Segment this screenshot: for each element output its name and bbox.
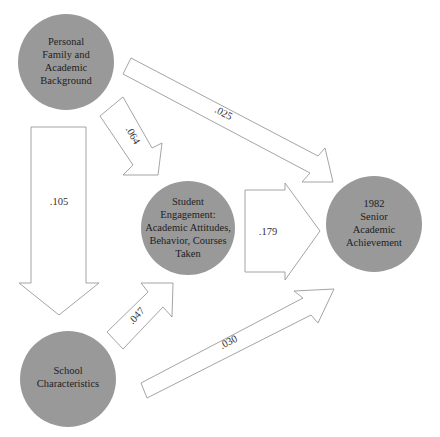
node-label-line: Achievement	[346, 237, 402, 248]
node-label-line: Personal	[48, 36, 84, 47]
node-label-line: 1982	[364, 198, 385, 209]
node-label-line: Senior	[360, 211, 388, 222]
node-label-line: Academic Attitudes,	[145, 222, 231, 233]
node-label-line: Characteristics	[37, 378, 99, 389]
node-school: School Characteristics	[20, 331, 116, 427]
right-arrow-icon	[245, 183, 320, 280]
node-label-line: Family and	[42, 49, 90, 60]
node-label-line: Student	[172, 196, 204, 207]
node-label-line: Background	[40, 75, 92, 86]
node-background: Personal Family and Academic Background	[18, 14, 114, 110]
arrow-background-to-engagement: .064	[100, 97, 162, 175]
path-diagram: .105 .064 .025 .179 .047 .030	[0, 0, 440, 437]
coefficient-label: .105	[50, 196, 68, 207]
node-label-line: School	[53, 365, 82, 376]
node-label-line: Academic	[353, 224, 396, 235]
coefficient-label: .179	[259, 226, 277, 237]
node-achievement: 1982 Senior Academic Achievement	[326, 176, 422, 272]
arrow-engagement-to-achievement: .179	[245, 183, 320, 280]
arrow-school-to-engagement: .047	[107, 283, 173, 349]
node-label-line: Behavior, Courses	[149, 235, 226, 246]
node-label-line: Academic	[45, 62, 88, 73]
node-label-line: Taken	[175, 248, 201, 259]
node-label-line: Engagement:	[160, 209, 215, 220]
down-arrow-icon	[19, 127, 99, 315]
arrow-background-to-school: .105	[19, 127, 99, 315]
node-engagement: Student Engagement: Academic Attitudes, …	[141, 181, 235, 275]
